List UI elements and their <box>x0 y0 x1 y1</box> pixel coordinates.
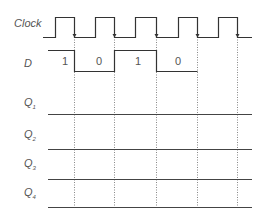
d-label: D <box>24 57 32 69</box>
d-value-4: 0 <box>175 55 181 67</box>
q2-label: Q2 <box>24 128 36 140</box>
q-lines <box>48 115 252 208</box>
clock-label: Clock <box>14 17 42 29</box>
d-value-3: 1 <box>135 55 141 67</box>
d-value-2: 0 <box>96 55 102 67</box>
q4-label: Q4 <box>24 186 36 198</box>
q1-label: Q1 <box>24 96 36 108</box>
timing-diagram <box>0 0 274 221</box>
q3-label: Q3 <box>24 157 36 169</box>
d-value-1: 1 <box>62 55 68 67</box>
